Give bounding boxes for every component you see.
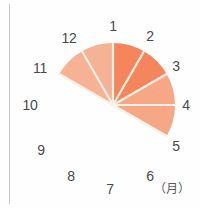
clock-label-1: 1 — [109, 19, 117, 33]
clock-label-11: 11 — [33, 61, 47, 75]
clock-label-2: 2 — [146, 29, 154, 43]
clock-label-6: 6 — [146, 169, 154, 183]
clock-label-7: 7 — [106, 182, 114, 196]
clock-fan-chart: 123456789101112 （月） — [0, 0, 200, 208]
clock-label-3: 3 — [172, 59, 180, 73]
clock-label-8: 8 — [67, 169, 75, 183]
clock-label-4: 4 — [182, 98, 190, 112]
clock-label-10: 10 — [23, 98, 38, 112]
clock-label-5: 5 — [172, 139, 180, 153]
clock-label-9: 9 — [37, 143, 45, 157]
unit-label: （月） — [154, 183, 190, 195]
clock-label-12: 12 — [62, 31, 77, 45]
